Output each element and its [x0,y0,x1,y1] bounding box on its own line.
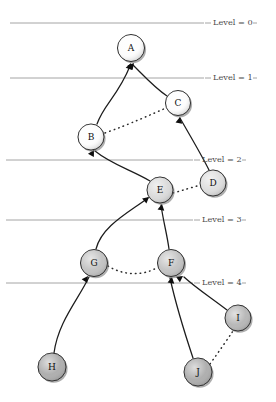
level-label-2: Level = 2 [202,154,242,164]
tree-diagram-svg: ACBDEGFIHJ Level = 0Level = 1Level = 2Le… [0,0,276,402]
level-label-0: Level = 0 [213,17,253,27]
edge-j-to-f [170,278,193,358]
edge-b-to-a [97,66,130,124]
node-j[interactable]: J [184,358,214,388]
dotted-link-j-i [210,331,233,364]
nodes-group: ACBDEGFIHJ [38,35,253,388]
level-label-1: Level = 1 [213,72,253,82]
edges-dotted-group [105,108,233,364]
level-label-4: Level = 4 [202,277,242,287]
level-label-3: Level = 3 [202,214,242,224]
node-b[interactable]: B [78,124,106,152]
edge-h-to-g [54,277,89,353]
node-label-h: H [48,362,56,372]
node-label-e: E [157,185,164,195]
node-d[interactable]: D [200,170,228,198]
node-label-i: I [236,313,240,323]
level-labels-group: Level = 0Level = 1Level = 2Level = 3Leve… [202,17,257,287]
level-lines-group [6,23,211,283]
edge-c-to-a [133,65,167,96]
node-h[interactable]: H [38,353,68,383]
edge-e-to-b [95,151,150,181]
tree-diagram-canvas: ACBDEGFIHJ Level = 0Level = 1Level = 2Le… [0,0,276,402]
node-label-f: F [168,258,174,268]
dotted-link-g-f [108,266,158,274]
node-e[interactable]: E [147,177,175,205]
node-a[interactable]: A [118,35,147,64]
edge-g-to-e [96,198,148,249]
edge-f-to-e [161,205,169,249]
node-g[interactable]: G [81,250,110,279]
node-label-c: C [175,98,182,108]
node-label-b: B [88,132,95,142]
node-label-g: G [90,258,97,268]
dotted-link-e-d [173,185,201,193]
node-i[interactable]: I [225,305,253,333]
node-label-a: A [127,43,135,53]
node-label-d: D [209,178,216,188]
node-label-j: J [195,367,200,377]
node-c[interactable]: C [166,91,193,118]
dotted-link-b-c [105,108,166,133]
node-f[interactable]: F [158,250,187,279]
edges-solid-group [54,65,227,358]
